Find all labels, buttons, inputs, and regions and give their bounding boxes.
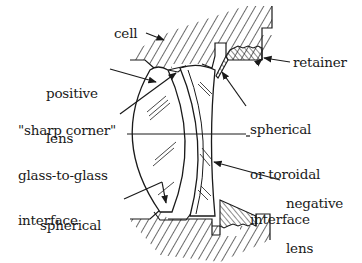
label-retainer: retainer	[293, 55, 347, 70]
label-negative-lens: negative lens	[286, 166, 343, 263]
label-sharp-corner-line2: glass-to-glass	[18, 168, 116, 183]
label-cell: cell	[114, 26, 137, 41]
label-sharp-corner-line1: "sharp corner"	[18, 123, 116, 138]
label-cell-text: cell	[114, 25, 137, 41]
label-spherical-tangent-line1: spherical	[40, 218, 110, 233]
label-retainer-text: retainer	[293, 54, 347, 70]
label-spherical-tangent: spherical or tangent interface	[40, 188, 110, 263]
label-spherical-toroidal-line1: spherical	[250, 122, 320, 137]
label-negative-lens-line1: negative	[286, 196, 343, 211]
positive-lens	[132, 66, 192, 220]
label-negative-lens-line2: lens	[286, 241, 343, 256]
lens-mount-diagram: cell retainer positive lens "sharp corne…	[0, 0, 362, 263]
